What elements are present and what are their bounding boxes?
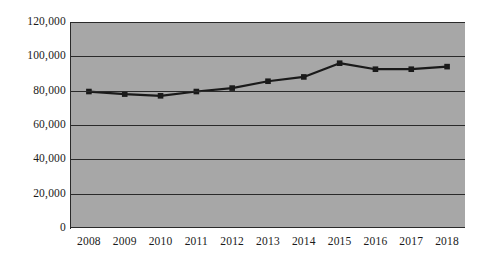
y-axis-labels: 020,00040,00060,00080,000100,000120,000 — [0, 0, 66, 266]
gridline-60000 — [71, 125, 465, 126]
x-tick-label: 2012 — [220, 236, 244, 248]
x-tick-label: 2015 — [328, 236, 352, 248]
gridline-40000 — [71, 159, 465, 160]
x-tick-label: 2010 — [149, 236, 173, 248]
gridline-80000 — [71, 91, 465, 92]
line-chart: 020,00040,00060,00080,000100,000120,000 … — [0, 0, 482, 266]
data-point-marker — [337, 60, 343, 66]
y-tick-label: 80,000 — [2, 85, 66, 97]
x-tick-label: 2011 — [185, 236, 208, 248]
series-markers — [86, 60, 450, 98]
gridline-120000 — [71, 22, 465, 23]
x-tick-label: 2014 — [292, 236, 316, 248]
y-tick-label: 20,000 — [2, 188, 66, 200]
y-tick-label: 0 — [2, 222, 66, 234]
data-point-marker — [158, 93, 164, 99]
data-point-marker — [444, 64, 450, 70]
y-tick-label: 40,000 — [2, 153, 66, 165]
y-tick-label: 60,000 — [2, 119, 66, 131]
data-point-marker — [122, 91, 128, 97]
x-tick-label: 2017 — [399, 236, 423, 248]
y-tick-label: 120,000 — [2, 16, 66, 28]
x-tick-label: 2009 — [113, 236, 137, 248]
data-point-marker — [373, 66, 379, 72]
x-tick-label: 2013 — [256, 236, 280, 248]
y-tick-label: 100,000 — [2, 50, 66, 62]
gridline-0 — [71, 227, 465, 228]
plot-area — [71, 22, 465, 228]
x-tick-label: 2008 — [77, 236, 101, 248]
gridline-100000 — [71, 56, 465, 57]
gridline-20000 — [71, 194, 465, 195]
x-tick-label: 2016 — [364, 236, 388, 248]
x-axis-labels: 2008200920102011201220132014201520162017… — [71, 236, 465, 256]
data-point-marker — [301, 74, 307, 80]
x-tick-label: 2018 — [435, 236, 459, 248]
data-point-marker — [408, 66, 414, 72]
data-point-marker — [265, 78, 271, 84]
